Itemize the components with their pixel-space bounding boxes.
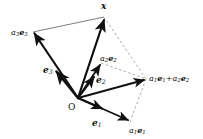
label-a2e2: a2e2 [100, 54, 117, 64]
dashed-construction-lines [101, 17, 146, 122]
label-a3e3: a3e3 [11, 28, 28, 38]
label-e3-subscript: 3 [49, 68, 53, 75]
vector-a1e1 [78, 98, 128, 120]
label-a1e1-plus-a2e2: a1e1+a2e2 [149, 74, 189, 84]
label-e1-subscript: 1 [98, 121, 102, 128]
label-origin: O [68, 103, 75, 112]
label-a1e1: a1e1 [129, 126, 146, 136]
label-e2-subscript: 2 [102, 78, 106, 85]
line-a3e3-to-x [33, 17, 104, 32]
dashed-a1e1-to-sum [130, 79, 146, 122]
thin-connector-lines [33, 17, 104, 32]
label-e3: e3 [43, 66, 53, 75]
label-a1e1-basis-subscript: 1 [142, 129, 145, 135]
dashed-a2e2-to-sum [101, 63, 146, 79]
label-a2e2-basis-subscript: 2 [113, 57, 116, 63]
label-x: x [101, 2, 106, 11]
vector-decomposition-figure: x O e1 e2 e3 a1e1 a2e2 a3e3 a1e1+a2e2 [0, 0, 203, 139]
label-e1: e1 [92, 119, 102, 128]
label-sum-basis2-subscript: 2 [186, 77, 189, 83]
label-e2: e2 [96, 76, 106, 85]
label-a3e3-basis-subscript: 3 [24, 31, 27, 37]
vector-e3 [57, 72, 79, 99]
label-sum-plus: + [166, 74, 173, 83]
dashed-x-to-sum [104, 17, 146, 79]
